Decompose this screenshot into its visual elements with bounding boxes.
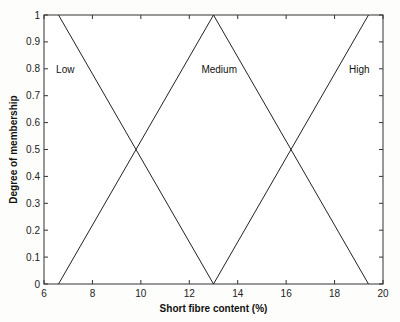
y-tick-label: 1 [34,10,40,21]
x-tick-label: 6 [41,288,47,299]
y-tick-label: 0.3 [26,198,40,209]
x-tick-label: 10 [135,288,147,299]
x-tick-label: 12 [184,288,196,299]
x-tick-label: 18 [329,288,341,299]
y-tick-label: 0.7 [26,90,40,101]
x-tick-label: 20 [377,288,389,299]
plot-area [44,15,383,284]
x-tick-label: 8 [90,288,96,299]
x-tick-label: 16 [281,288,293,299]
y-tick-label: 0.1 [26,252,40,263]
y-tick-label: 0.9 [26,36,40,47]
y-tick-label: 0.4 [26,171,40,182]
y-tick-label: 0 [34,279,40,290]
y-tick-label: 0.5 [26,144,40,155]
y-tick-label: 0.6 [26,117,40,128]
membership-label-low: Low [56,64,75,75]
x-axis-label: Short fibre content (%) [160,303,268,314]
membership-label-medium: Medium [201,64,237,75]
y-tick-label: 0.2 [26,225,40,236]
chart: 6810121416182000.10.20.30.40.50.60.70.80… [0,0,400,322]
x-tick-label: 14 [232,288,244,299]
y-tick-label: 0.8 [26,63,40,74]
y-axis-label: Degree of membership [8,95,19,203]
membership-label-high: High [349,64,370,75]
